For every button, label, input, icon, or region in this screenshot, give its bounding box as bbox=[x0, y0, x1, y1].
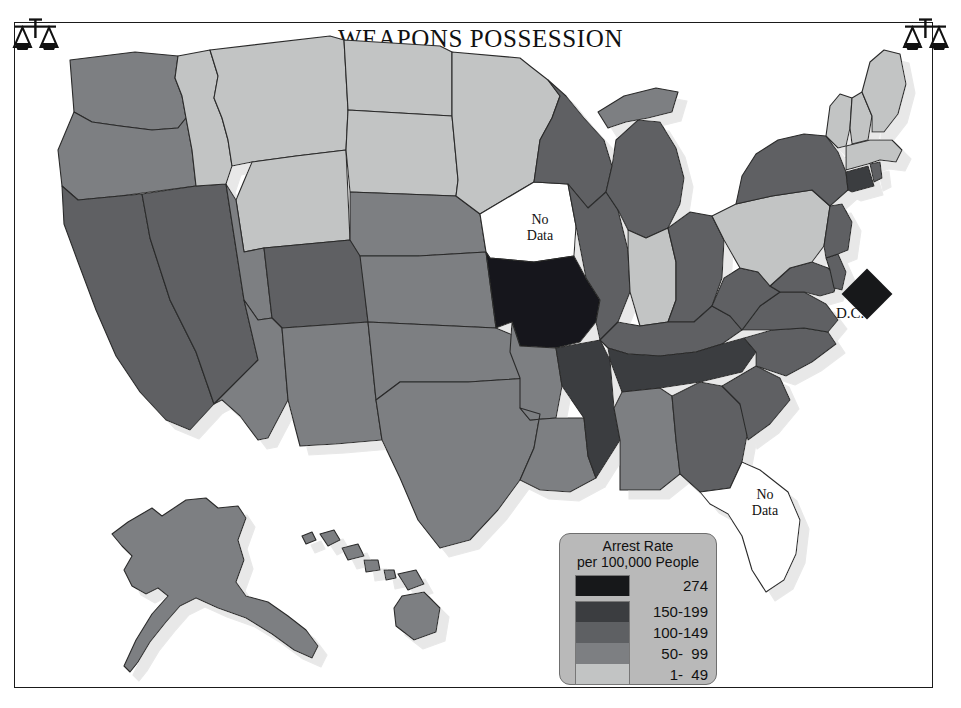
state-CT[interactable] bbox=[846, 166, 874, 192]
legend-label: 150-199 bbox=[630, 603, 718, 620]
map-page: WEAPONS POSSESSION 1991 bbox=[0, 0, 961, 708]
map-body bbox=[58, 36, 906, 672]
state-AK[interactable] bbox=[112, 498, 318, 672]
state-TX[interactable] bbox=[376, 378, 540, 548]
state-KS[interactable] bbox=[360, 252, 496, 328]
legend-row[interactable]: 274 bbox=[560, 575, 718, 596]
legend-label: 1- 49 bbox=[630, 666, 718, 683]
label-dc: D.C. bbox=[836, 305, 882, 322]
legend-rows: 274150-199100-14950- 991- 49 bbox=[560, 575, 718, 685]
legend-swatch bbox=[575, 622, 630, 643]
legend-label: 50- 99 bbox=[630, 645, 718, 662]
state-NM[interactable] bbox=[282, 322, 382, 446]
state-SD[interactable] bbox=[346, 110, 458, 196]
legend-panel: Arrest Rate per 100,000 People 274150-19… bbox=[559, 533, 717, 685]
legend-title-line2: per 100,000 People bbox=[560, 555, 716, 571]
us-map-svg bbox=[0, 0, 961, 708]
state-WA[interactable] bbox=[70, 52, 186, 130]
label-iowa-line1: No bbox=[507, 212, 573, 228]
legend-row[interactable]: 50- 99 bbox=[560, 643, 718, 664]
state-IN[interactable] bbox=[628, 228, 676, 326]
state-CO[interactable] bbox=[264, 240, 368, 328]
legend-swatch bbox=[575, 575, 630, 596]
state-WY[interactable] bbox=[236, 150, 350, 252]
label-florida-line2: Data bbox=[735, 503, 795, 519]
state-ND[interactable] bbox=[344, 40, 452, 116]
legend-swatch bbox=[575, 643, 630, 664]
label-florida-no-data: NoData bbox=[735, 487, 795, 518]
state-MT[interactable] bbox=[210, 36, 348, 166]
label-florida-line1: No bbox=[735, 487, 795, 503]
state-HI[interactable] bbox=[302, 530, 440, 640]
legend-swatch bbox=[575, 601, 630, 622]
state-VT[interactable] bbox=[826, 94, 852, 148]
legend-row[interactable]: 100-149 bbox=[560, 622, 718, 643]
state-AL[interactable] bbox=[614, 388, 680, 490]
legend-row[interactable]: 150-199 bbox=[560, 601, 718, 622]
choropleth-map: NoData NoData D.C. bbox=[0, 0, 961, 708]
legend-title-line1: Arrest Rate bbox=[560, 539, 716, 555]
legend-swatch bbox=[575, 664, 630, 685]
legend-label: 100-149 bbox=[630, 624, 718, 641]
label-iowa-no-data: NoData bbox=[507, 212, 573, 243]
label-iowa-line2: Data bbox=[507, 228, 573, 244]
legend-label: 274 bbox=[630, 577, 718, 594]
legend-row[interactable]: 1- 49 bbox=[560, 664, 718, 685]
legend-title: Arrest Rate per 100,000 People bbox=[560, 534, 716, 570]
